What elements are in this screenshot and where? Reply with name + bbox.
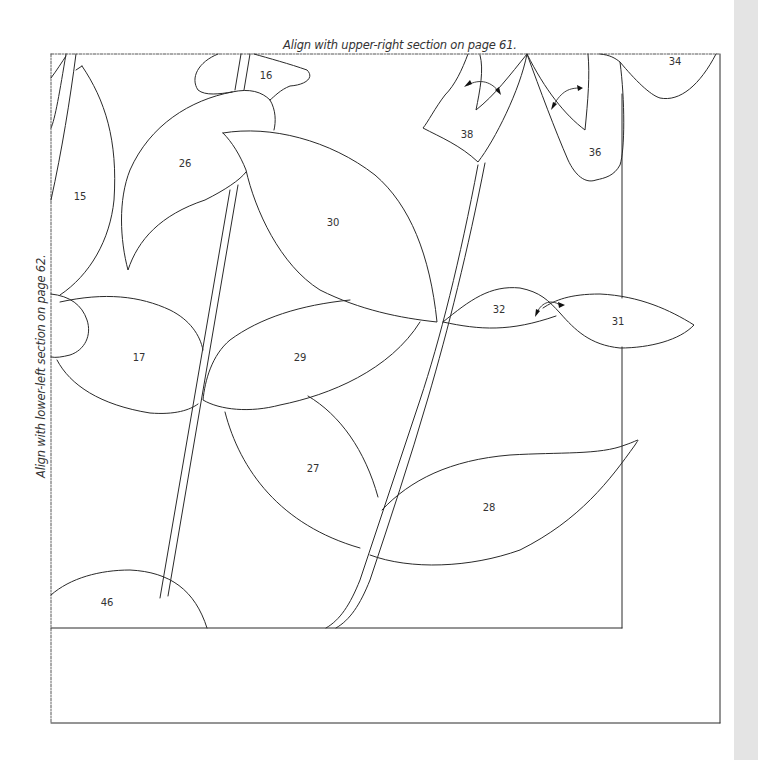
applique-pattern-drawing bbox=[0, 0, 758, 760]
piece-label-31: 31 bbox=[612, 316, 625, 327]
piece-label-28: 28 bbox=[483, 502, 496, 513]
piece-label-27: 27 bbox=[307, 463, 320, 474]
pattern-page: Align with upper-right section on page 6… bbox=[0, 0, 758, 760]
arrow-heads bbox=[464, 80, 583, 317]
piece-label-34: 34 bbox=[669, 56, 682, 67]
rotation-arrows bbox=[468, 81, 580, 313]
piece-label-29: 29 bbox=[294, 352, 307, 363]
piece-label-38: 38 bbox=[461, 129, 474, 140]
piece-label-32: 32 bbox=[493, 304, 506, 315]
piece-label-30: 30 bbox=[327, 217, 340, 228]
piece-label-15: 15 bbox=[74, 191, 87, 202]
piece-label-17: 17 bbox=[133, 352, 146, 363]
piece-label-26: 26 bbox=[179, 158, 192, 169]
piece-label-46: 46 bbox=[101, 597, 114, 608]
frame-lines bbox=[51, 54, 720, 723]
piece-label-16: 16 bbox=[260, 70, 273, 81]
piece-label-36: 36 bbox=[589, 147, 602, 158]
